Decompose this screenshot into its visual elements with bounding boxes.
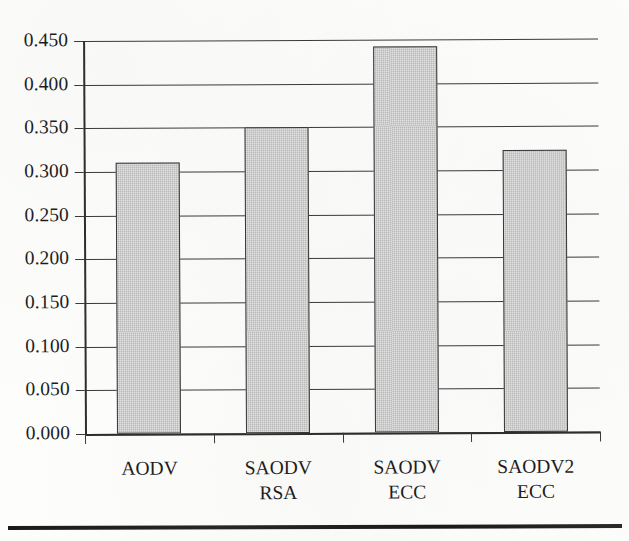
y-axis-tick <box>74 85 83 86</box>
x-axis-tick <box>342 433 343 443</box>
y-axis-tick-label: 0.250 <box>0 204 69 226</box>
x-axis-tick <box>471 432 472 442</box>
y-axis-tick-label: 0.400 <box>0 73 68 95</box>
x-axis-tick-label-line1: SAODV <box>373 456 440 477</box>
y-axis-tick <box>75 128 84 129</box>
plot-area: 0.0000.0500.1000.1500.2000.2500.3000.350… <box>0 0 629 541</box>
y-axis-tick <box>74 41 83 42</box>
bar <box>502 150 567 432</box>
x-axis-tick <box>600 431 601 441</box>
chart-page: 0.0000.0500.1000.1500.2000.2500.3000.350… <box>0 0 629 541</box>
x-axis-tick <box>85 434 86 444</box>
y-axis-tick <box>75 259 84 260</box>
y-axis-tick <box>76 434 85 435</box>
y-axis-tick-label: 0.100 <box>0 335 70 357</box>
y-axis-tick <box>76 347 85 348</box>
y-gridline <box>83 82 598 86</box>
bar-chart-figure: 0.0000.0500.1000.1500.2000.2500.3000.350… <box>0 0 629 541</box>
y-axis-tick <box>75 303 84 304</box>
y-axis-tick <box>75 216 84 217</box>
y-axis-tick-label: 0.200 <box>0 247 69 269</box>
y-gridline <box>84 126 599 130</box>
y-axis-tick-label: 0.150 <box>0 291 69 313</box>
y-axis-tick-label: 0.000 <box>0 422 70 444</box>
x-axis-tick <box>214 433 215 443</box>
y-gridline <box>83 38 598 42</box>
y-axis-tick <box>75 172 84 173</box>
y-axis-tick-label: 0.050 <box>0 378 70 400</box>
x-axis-tick-label-line1: AODV <box>121 458 177 479</box>
y-axis-tick-label: 0.450 <box>0 29 68 51</box>
bar <box>116 163 181 434</box>
x-axis-tick-label-line2: ECC <box>456 478 616 504</box>
x-axis-tick-label-line1: SAODV2 <box>497 456 574 477</box>
y-axis-tick-label: 0.300 <box>0 160 69 182</box>
x-axis-tick-label: SAODV2ECC <box>456 453 616 504</box>
bar <box>373 46 439 432</box>
x-axis-tick-label-line1: SAODV <box>245 457 312 478</box>
y-axis-tick <box>76 390 85 391</box>
bar <box>245 127 310 433</box>
y-axis-line <box>83 41 87 434</box>
y-axis-tick-label: 0.350 <box>0 116 69 138</box>
